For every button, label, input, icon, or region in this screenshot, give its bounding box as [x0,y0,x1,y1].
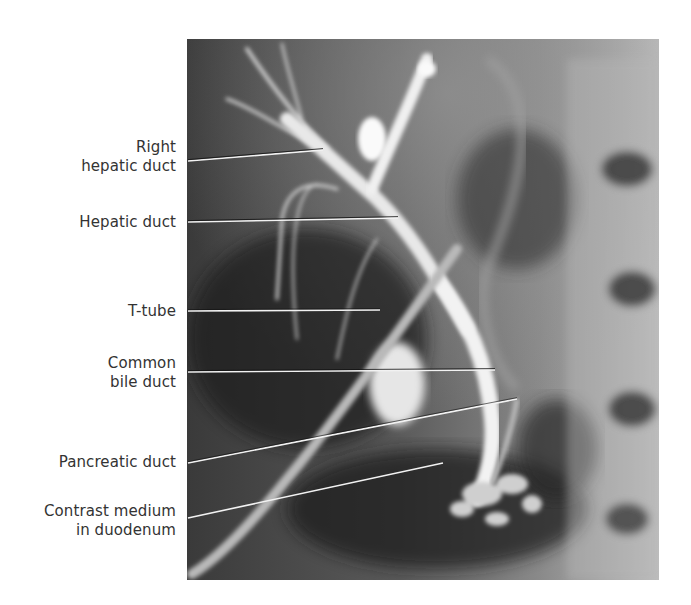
label-line: bile duct [108,373,176,392]
label-hepatic-duct: Hepatic duct [79,213,176,232]
xray-rendering [187,39,659,580]
label-line: Contrast medium [44,502,176,521]
label-line: T-tube [128,302,176,321]
label-line: in duodenum [44,521,176,540]
label-right-hepatic-duct: Right hepatic duct [81,138,176,176]
label-contrast-medium-in-duodenum: Contrast medium in duodenum [44,502,176,540]
label-line: Pancreatic duct [59,453,176,472]
label-line: Hepatic duct [79,213,176,232]
labeled-radiograph-figure: Right hepatic duct Hepatic duct T-tube C… [0,0,691,605]
label-t-tube: T-tube [128,302,176,321]
label-line: Common [108,354,176,373]
label-pancreatic-duct: Pancreatic duct [59,453,176,472]
label-line: hepatic duct [81,157,176,176]
label-common-bile-duct: Common bile duct [108,354,176,392]
cholangiogram-xray-image [187,39,659,580]
label-line: Right [81,138,176,157]
